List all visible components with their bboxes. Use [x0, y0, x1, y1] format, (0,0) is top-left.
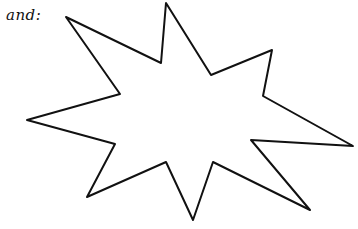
star-burst-icon — [0, 0, 358, 229]
star-outline — [27, 3, 353, 220]
sketch-canvas: and: — [0, 0, 358, 229]
